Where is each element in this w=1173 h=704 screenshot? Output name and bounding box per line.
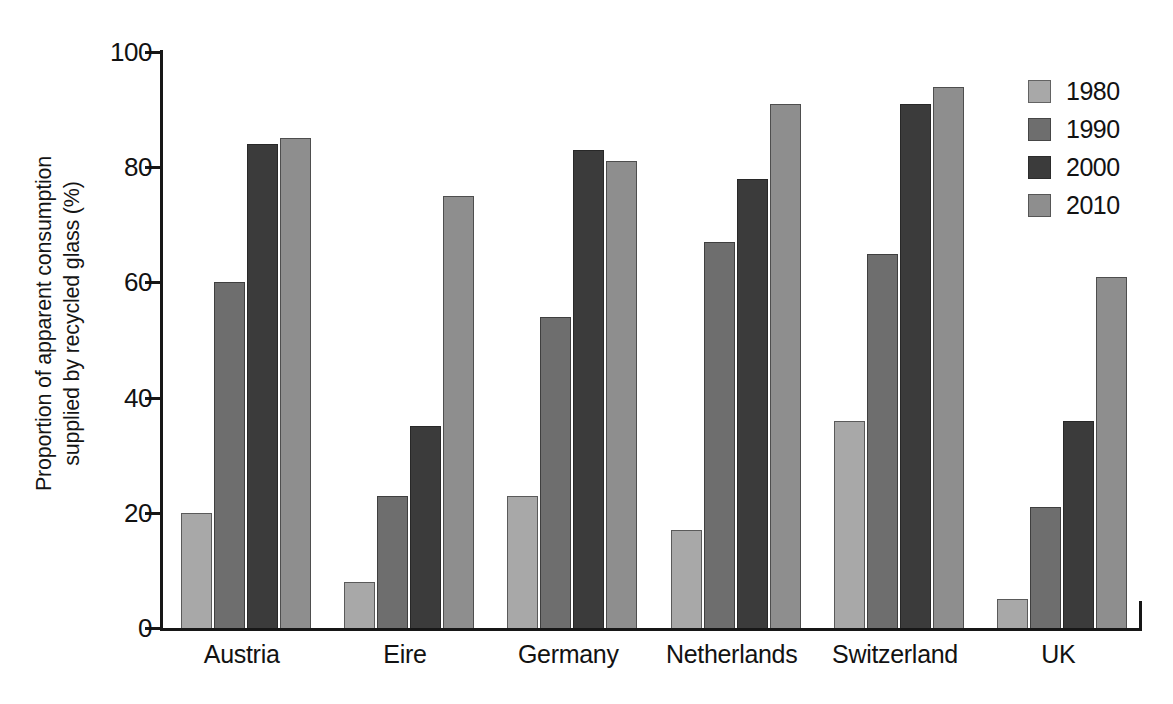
y-axis-tick-label: 0	[138, 613, 152, 644]
y-axis-tick-label: 60	[124, 267, 152, 298]
x-axis-label-netherlands: Netherlands	[650, 640, 813, 669]
legend-swatch-icon-2000	[1028, 156, 1051, 179]
bar-group-eire	[344, 52, 474, 628]
legend-label-1980: 1980	[1066, 77, 1120, 106]
bar-group-germany	[507, 52, 637, 628]
bar-netherlands-2000	[737, 179, 768, 628]
figure-caption	[8, 690, 1158, 704]
bar-uk-1980	[997, 599, 1028, 628]
plot-area	[160, 52, 1140, 628]
legend-label-1990: 1990	[1066, 115, 1120, 144]
bar-eire-2010	[443, 196, 474, 628]
bar-group-austria	[181, 52, 311, 628]
bar-germany-2010	[606, 161, 637, 628]
legend-swatch-icon-1990	[1028, 118, 1051, 141]
bar-netherlands-1990	[704, 242, 735, 628]
bar-eire-1980	[344, 582, 375, 628]
legend-item-2000[interactable]: 2000	[1028, 148, 1168, 186]
x-axis-label-switzerland: Switzerland	[813, 640, 976, 669]
x-axis-line	[160, 628, 1142, 631]
x-axis-label-eire: Eire	[323, 640, 486, 669]
legend-label-2000: 2000	[1066, 153, 1120, 182]
bar-uk-2000	[1063, 421, 1094, 628]
bar-uk-1990	[1030, 507, 1061, 628]
x-axis-label-uk: UK	[977, 640, 1140, 669]
y-axis-title-container: Proportion of apparent consumption suppl…	[0, 0, 96, 640]
bar-eire-2000	[410, 426, 441, 628]
legend-item-2010[interactable]: 2010	[1028, 186, 1168, 224]
bar-austria-2010	[280, 138, 311, 628]
legend: 1980199020002010	[1028, 72, 1168, 224]
bar-switzerland-2010	[933, 87, 964, 628]
legend-item-1990[interactable]: 1990	[1028, 110, 1168, 148]
figure: Proportion of apparent consumption suppl…	[0, 0, 1173, 704]
bar-switzerland-2000	[900, 104, 931, 628]
bar-switzerland-1980	[834, 421, 865, 628]
legend-item-1980[interactable]: 1980	[1028, 72, 1168, 110]
bar-germany-2000	[573, 150, 604, 628]
bar-eire-1990	[377, 496, 408, 628]
y-axis-tick-label: 20	[124, 497, 152, 528]
bar-austria-1980	[181, 513, 212, 628]
y-axis-tick-label: 80	[124, 152, 152, 183]
bar-netherlands-2010	[770, 104, 801, 628]
bar-austria-2000	[247, 144, 278, 628]
legend-label-2010: 2010	[1066, 191, 1120, 220]
y-axis-tick-label: 100	[110, 37, 152, 68]
y-axis-tick-label: 40	[124, 382, 152, 413]
bar-austria-1990	[214, 282, 245, 628]
x-axis-label-austria: Austria	[160, 640, 323, 669]
bar-group-netherlands	[671, 52, 801, 628]
bar-uk-2010	[1096, 277, 1127, 628]
legend-swatch-icon-1980	[1028, 80, 1051, 103]
y-axis-title: Proportion of apparent consumption suppl…	[30, 31, 86, 616]
bar-group-switzerland	[834, 52, 964, 628]
bar-germany-1990	[540, 317, 571, 628]
bar-netherlands-1980	[671, 530, 702, 628]
legend-swatch-icon-2010	[1028, 194, 1051, 217]
bar-switzerland-1990	[867, 254, 898, 628]
x-axis-label-germany: Germany	[487, 640, 650, 669]
bar-germany-1980	[507, 496, 538, 628]
